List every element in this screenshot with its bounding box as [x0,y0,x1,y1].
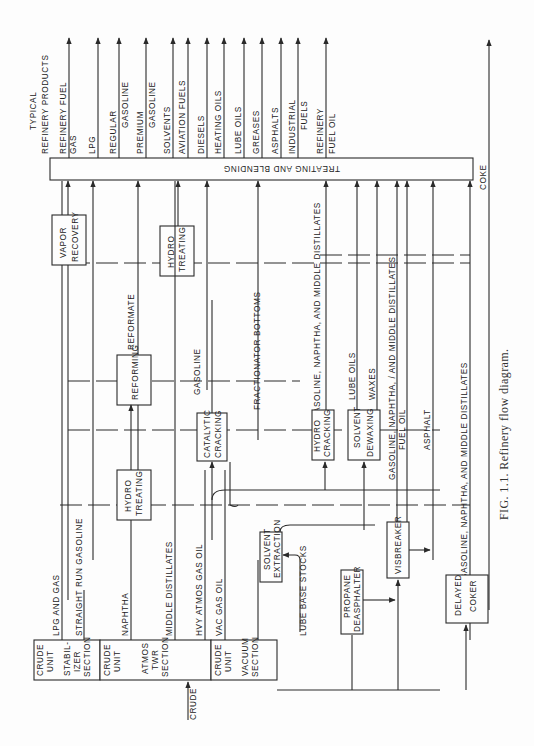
svg-text:DELAYED: DELAYED [454,574,463,616]
product-label: REFINERY FUEL [59,82,68,154]
svg-text:GASOLINE, NAPHTHA, AND MIDDLE: GASOLINE, NAPHTHA, AND MIDDLE DISTILLATE… [460,362,469,580]
svg-text:VAPOR: VAPOR [59,227,68,258]
svg-text:LUBE OILS: LUBE OILS [348,352,357,400]
product-label: FUEL OIL [328,113,337,154]
crude-feed-label: CRUDE [189,688,198,720]
svg-text:TREATING: TREATING [178,226,187,272]
product-label: LPG [88,136,97,154]
crude-unit: CRUDE UNIT STABIL- IZER SECTION CRUDE UN… [34,636,277,680]
figure-caption: FIG. 1.1. Refinery flow diagram. [497,349,511,520]
product-label: HEATING OILS [214,90,223,154]
product-label: GASOLINE [148,81,157,128]
svg-text:GASOLINE, NAPHTHA, / AND MIDDL: GASOLINE, NAPHTHA, / AND MIDDLE DISTILLA… [388,256,397,480]
svg-text:VISBREAKER: VISBREAKER [394,516,403,574]
svg-text:STRAIGHT RUN GASOLINE: STRAIGHT RUN GASOLINE [75,518,84,636]
svg-text:HYDRO: HYDRO [313,419,322,452]
svg-text:GASOLINE: GASOLINE [193,348,202,395]
svg-text:SOLVENT: SOLVENT [353,406,362,448]
svg-text:DEASPHALTER: DEASPHALTER [353,566,362,632]
svg-text:CRUDE: CRUDE [36,644,45,676]
product-label: FUELS [300,101,309,130]
product-label: DIESELS [197,115,206,154]
svg-text:UNIT: UNIT [46,650,55,672]
svg-text:TWR: TWR [151,650,160,670]
product-label: GASOLINE [121,81,130,128]
product-label: ASPHALTS [271,107,280,154]
svg-text:SECTION: SECTION [251,636,260,677]
svg-text:UNIT: UNIT [113,650,122,672]
svg-text:GASOLINE, NAPHTHA, AND MIDDLE: GASOLINE, NAPHTHA, AND MIDDLE DISTILLATE… [313,202,322,420]
vapor-recovery-box [52,215,86,265]
svg-text:CRUDE: CRUDE [103,644,112,676]
svg-text:VACUUM: VACUUM [241,638,250,676]
svg-text:ATMOS: ATMOS [141,642,150,674]
svg-text:IZER: IZER [73,651,82,672]
svg-text:FRACTIONATOR BOTTOMS: FRACTIONATOR BOTTOMS [253,292,262,410]
svg-text:SECTION: SECTION [83,636,92,677]
svg-text:ASPHALT: ASPHALT [423,409,432,450]
coke-label: COKE [479,164,488,190]
svg-text:VAC GAS OIL: VAC GAS OIL [215,578,224,636]
product-label: PREMIUM [136,111,145,154]
header-title: REFINERY PRODUCTS [41,54,50,154]
product-label: REFINERY [316,108,325,154]
svg-text:CRUDE: CRUDE [214,644,223,676]
svg-text:HYDRO: HYDRO [124,479,133,512]
svg-text:FUEL OIL: FUEL OIL [398,409,407,450]
hydro-treating-box-1 [117,470,151,520]
svg-text:CRACKING: CRACKING [323,409,332,457]
svg-text:TREATING: TREATING [135,470,144,516]
svg-text:SOLVENT: SOLVENT [263,528,272,570]
svg-text:COKER: COKER [469,580,478,612]
product-label: GAS [69,135,78,154]
svg-text:LPG AND GAS: LPG AND GAS [52,574,61,636]
hydro-treating-box-2 [160,226,194,276]
svg-text:DEWAXING: DEWAXING [366,408,375,457]
svg-text:MIDDLE DISTILLATES: MIDDLE DISTILLATES [165,541,174,636]
product-label: LUBE OILS [234,106,243,154]
svg-text:WAXES: WAXES [368,368,377,400]
svg-text:REFORMING: REFORMING [131,345,140,400]
product-label: GREASES [252,110,261,154]
svg-text:CATALYTIC: CATALYTIC [203,409,212,458]
svg-text:PROPANE: PROPANE [343,574,352,618]
svg-text:HVY ATMOS GAS OIL: HVY ATMOS GAS OIL [195,544,204,636]
svg-text:STABIL-: STABIL- [63,641,72,676]
refinery-flow-diagram: REFINERY FUEL GAS LPG REGULAR GASOLINE P… [0,0,534,746]
header-title: TYPICAL [29,92,38,130]
svg-text:UNIT: UNIT [224,650,233,672]
svg-text:CRACKING: CRACKING [214,410,223,458]
treating-blending-label: TREATING AND BLENDING [223,164,340,173]
product-label: AVIATION FUELS [178,80,187,154]
product-label: SOLVENTS [163,106,172,154]
svg-text:NAPHTHA: NAPHTHA [121,593,130,636]
svg-text:REFORMATE: REFORMATE [127,294,136,350]
svg-text:RECOVERY: RECOVERY [71,211,80,262]
svg-text:SECTION: SECTION [161,636,170,677]
delayed-coker-box [446,575,488,623]
product-label: INDUSTRIAL [288,99,297,154]
product-label: REGULAR [109,110,118,154]
